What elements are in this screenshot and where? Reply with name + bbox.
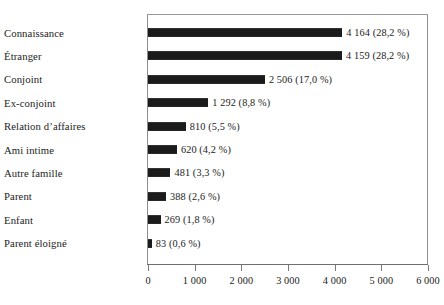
category-label: Parent éloigné — [4, 236, 136, 250]
bar-chart: ConnaissanceÉtrangerConjointEx-conjointR… — [0, 0, 444, 305]
category-label: Relation d’affaires — [4, 119, 136, 133]
x-tick-label: 3 000 — [276, 274, 300, 287]
category-label: Conjoint — [4, 72, 136, 86]
bar — [148, 28, 342, 37]
bars-layer: 4 164 (28,2 %)4 159 (28,2 %)2 506 (17,0 … — [148, 14, 428, 264]
x-tick-label: 0 — [145, 274, 150, 287]
tick-mark — [381, 265, 382, 271]
bar — [148, 145, 177, 154]
tick-mark — [148, 265, 149, 271]
bar-value-label: 1 292 (8,8 %) — [212, 96, 270, 109]
bar — [148, 98, 208, 107]
bar — [148, 75, 265, 84]
category-axis-labels: ConnaissanceÉtrangerConjointEx-conjointR… — [0, 14, 142, 265]
bar-value-label: 388 (2,6 %) — [170, 190, 220, 203]
x-tick-label: 6 000 — [416, 274, 440, 287]
tick-mark — [241, 265, 242, 271]
bar-value-label: 269 (1,8 %) — [165, 213, 215, 226]
tick-mark — [428, 265, 429, 271]
x-tick-label: 5 000 — [369, 274, 393, 287]
category-label: Connaissance — [4, 26, 136, 40]
bar-value-label: 2 506 (17,0 %) — [269, 73, 332, 86]
bar — [148, 122, 186, 131]
category-label: Ex-conjoint — [4, 96, 136, 110]
bar — [148, 215, 161, 224]
tick-mark — [288, 265, 289, 271]
bar — [148, 192, 166, 201]
category-label: Ami intime — [4, 143, 136, 157]
x-axis-ticks: 01 0002 0003 0004 0005 0006 000 — [148, 265, 428, 301]
bar-value-label: 4 159 (28,2 %) — [346, 49, 409, 62]
category-label: Enfant — [4, 213, 136, 227]
bar — [148, 51, 342, 60]
tick-mark — [195, 265, 196, 271]
category-label: Étranger — [4, 49, 136, 63]
bar — [148, 168, 170, 177]
x-tick-label: 2 000 — [229, 274, 253, 287]
category-label: Autre famille — [4, 166, 136, 180]
bar-value-label: 83 (0,6 %) — [156, 237, 201, 250]
category-label: Parent — [4, 189, 136, 203]
bar-value-label: 481 (3,3 %) — [174, 166, 224, 179]
bar-value-label: 810 (5,5 %) — [190, 120, 240, 133]
x-tick-label: 1 000 — [183, 274, 207, 287]
bar-value-label: 620 (4,2 %) — [181, 143, 231, 156]
bar-value-label: 4 164 (28,2 %) — [346, 26, 409, 39]
bar — [148, 239, 152, 248]
x-tick-label: 4 000 — [323, 274, 347, 287]
tick-mark — [335, 265, 336, 271]
